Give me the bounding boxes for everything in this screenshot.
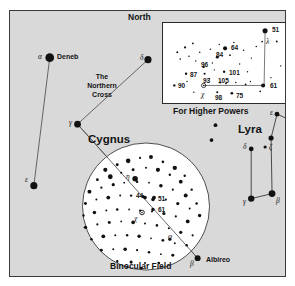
star-delta-cygni — [144, 56, 151, 63]
line-deneb-epsilon — [34, 58, 50, 186]
label-for-higher-powers: For Higher Powers — [173, 107, 249, 116]
star-zeta-lyrae — [264, 145, 267, 148]
inset-label-lambda-glyph: λ — [266, 38, 269, 46]
label-star-44: 44 — [136, 193, 143, 200]
inset-label-chi-glyph: χ — [201, 91, 204, 99]
field-stars — [210, 123, 218, 142]
star-gamma-cygni — [74, 121, 81, 128]
star-eta-cygni — [132, 176, 138, 182]
star-epsilon-cygni — [30, 182, 37, 189]
star-chart-figure: North α Deneb δ γ ε η β Albireo The Nort… — [0, 0, 295, 286]
label-alpha-glyph: α — [38, 53, 42, 61]
inset-label-75: 75 — [236, 93, 243, 100]
label-northern-cross: The Northern Cross — [76, 73, 128, 99]
inset-star-75 — [231, 92, 234, 95]
label-beta-albireo-glyph: β — [190, 260, 194, 268]
inset-star-90 — [173, 84, 175, 86]
label-epsilon-cygni-glyph: ε — [25, 176, 28, 184]
northern-cross-line-3: Cross — [76, 91, 128, 100]
star-vega-node — [268, 135, 273, 140]
label-cygnus: Cygnus — [88, 134, 130, 146]
inset-label-101: 101 — [229, 70, 240, 77]
label-binocular-field: Binocular Field — [110, 262, 171, 271]
inset-label-90: 90 — [178, 83, 185, 90]
inset-label-93: 93 — [203, 78, 210, 85]
inset-label-61: 61 — [270, 83, 277, 90]
inset-star-chi-core — [203, 85, 204, 86]
label-zeta-lyrae-glyph: ζ — [269, 144, 272, 152]
star-44 — [143, 196, 147, 200]
inset-star-101 — [223, 71, 225, 73]
northern-cross-line-2: Northern — [76, 82, 128, 91]
label-star-51: 51 — [158, 196, 165, 203]
star-61 — [151, 208, 154, 211]
star-gamma-lyrae — [248, 195, 254, 201]
inset-connecting-lines — [204, 33, 265, 86]
inset-label-87: 87 — [190, 72, 197, 79]
label-chi-cygni-glyph: χ — [134, 215, 137, 223]
inset-star-64 — [223, 46, 227, 50]
main-sky-panel: North α Deneb δ γ ε η β Albireo The Nort… — [9, 10, 286, 277]
label-gamma-lyrae-glyph: γ — [243, 198, 246, 206]
inset-panel-higher-powers: 51 λ 64 84 96 101 87 93 90 105 χ 98 75 6… — [162, 22, 286, 104]
line-epsilon-vega — [271, 114, 277, 138]
inset-label-98: 98 — [215, 95, 222, 102]
label-star-61: 61 — [158, 207, 165, 214]
inset-label-96: 96 — [201, 62, 208, 69]
northern-cross-line-1: The — [76, 73, 128, 82]
inset-star-lambda — [261, 41, 263, 43]
star-51 — [151, 198, 155, 202]
label-gamma-cygni-glyph: γ — [69, 119, 72, 127]
inset-svg-layer — [163, 23, 286, 103]
star-delta-lyrae — [249, 147, 254, 152]
label-delta-lyrae-glyph: δ — [243, 143, 247, 151]
inset-label-64: 64 — [231, 45, 238, 52]
inset-star-51 — [263, 28, 268, 33]
label-beta-lyrae-glyph: β — [276, 197, 280, 205]
inset-star-61 — [261, 83, 265, 87]
inset-star-87 — [185, 73, 187, 75]
inset-label-51: 51 — [272, 27, 279, 34]
label-lyra: Lyra — [238, 124, 262, 136]
inset-labeled-stars — [173, 28, 267, 94]
label-epsilon-lyrae-glyph: ε — [270, 109, 273, 117]
inset-label-105: 105 — [218, 78, 229, 85]
star-chi-cygni-core — [141, 212, 143, 214]
label-deneb: Deneb — [57, 53, 78, 60]
label-phi-cygni-glyph: φ — [168, 233, 172, 241]
label-albireo: Albireo — [206, 256, 230, 263]
star-epsilon-lyrae — [275, 112, 280, 117]
star-beta-albireo — [195, 255, 201, 261]
inset-line-51-61 — [264, 33, 265, 86]
inset-label-84: 84 — [216, 52, 223, 59]
star-beta-lyrae — [269, 190, 276, 197]
label-eta-cygni-glyph: η — [126, 173, 130, 181]
star-alpha-deneb — [45, 53, 54, 62]
label-delta-cygni-glyph: δ — [140, 54, 144, 62]
orientation-label-north: North — [128, 13, 151, 22]
inset-star-93 — [204, 73, 206, 75]
